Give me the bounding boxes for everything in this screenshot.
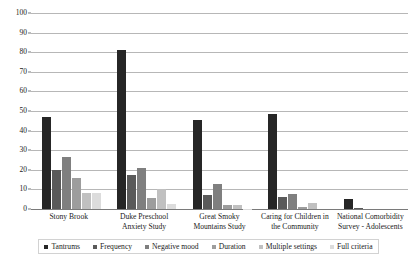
y-tick-label-70: 70 [20, 68, 28, 76]
legend-item[interactable]: Tantrums [44, 243, 80, 251]
bar [344, 199, 353, 209]
legend-label: Tantrums [51, 243, 80, 251]
bar [354, 208, 363, 209]
bar [193, 120, 202, 209]
bar [127, 175, 136, 209]
legend-swatch-icon [259, 245, 263, 249]
bar-group [31, 13, 106, 209]
bar [278, 197, 287, 209]
bar-groups [31, 13, 408, 209]
bar [213, 184, 222, 209]
y-tick-label-20: 20 [20, 166, 28, 174]
bar [52, 170, 61, 209]
legend-item[interactable]: Frequency [93, 243, 132, 251]
x-axis-label: National Comorbidity Survey - Adolescent… [333, 212, 408, 232]
y-tick-label-100: 100 [16, 9, 27, 17]
y-tick-label-80: 80 [20, 48, 28, 56]
bar [167, 204, 176, 209]
legend-item[interactable]: Duration [212, 243, 246, 251]
y-tick-label-30: 30 [20, 146, 28, 154]
bar-group [333, 13, 408, 209]
bar [137, 168, 146, 209]
x-axis-label: Stony Brook [31, 212, 106, 232]
bar [298, 207, 307, 209]
bar [288, 194, 297, 209]
y-tick-label-10: 10 [20, 186, 28, 194]
bar-group [257, 13, 332, 209]
bar [157, 189, 166, 209]
legend-label: Duration [219, 243, 246, 251]
legend-label: Negative mood [152, 243, 199, 251]
y-tick-label-60: 60 [20, 88, 28, 96]
legend-item[interactable]: Negative mood [145, 243, 199, 251]
bar [233, 205, 242, 210]
legend-label: Frequency [100, 243, 132, 251]
bar [308, 203, 317, 209]
y-tick-label-50: 50 [20, 107, 28, 115]
bar-group [182, 13, 257, 209]
bar [117, 50, 126, 209]
legend-label: Full criteria [337, 243, 373, 251]
x-axis-labels: Stony BrookDuke Preschool Anxiety StudyG… [31, 212, 408, 232]
bar [62, 157, 71, 209]
bar-group [106, 13, 181, 209]
x-axis-label: Caring for Children in the Community [257, 212, 332, 232]
legend-swatch-icon [44, 245, 48, 249]
bar [72, 178, 81, 209]
bar-chart: 0102030405060708090100 Stony BrookDuke P… [0, 0, 416, 260]
legend-item[interactable]: Multiple settings [259, 243, 317, 251]
bar [203, 195, 212, 209]
x-axis-label: Great Smoky Mountains Study [182, 212, 257, 232]
chart-legend: TantrumsFrequencyNegative moodDurationMu… [38, 239, 379, 254]
x-axis-label: Duke Preschool Anxiety Study [106, 212, 181, 232]
legend-swatch-icon [212, 245, 216, 249]
bar [147, 198, 156, 209]
y-tick-label-0: 0 [23, 205, 27, 213]
legend-item[interactable]: Full criteria [330, 243, 373, 251]
plot-area: 0102030405060708090100 [31, 13, 408, 209]
gridline-0 [31, 209, 408, 210]
y-tick-label-40: 40 [20, 127, 28, 135]
bar [42, 117, 51, 210]
legend-swatch-icon [145, 245, 149, 249]
bar [82, 193, 91, 209]
bar [92, 193, 101, 209]
legend-label: Multiple settings [266, 243, 317, 251]
legend-swatch-icon [330, 245, 334, 249]
bar [223, 205, 232, 209]
legend-swatch-icon [93, 245, 97, 249]
y-tick-label-90: 90 [20, 29, 28, 37]
bar [268, 114, 277, 209]
